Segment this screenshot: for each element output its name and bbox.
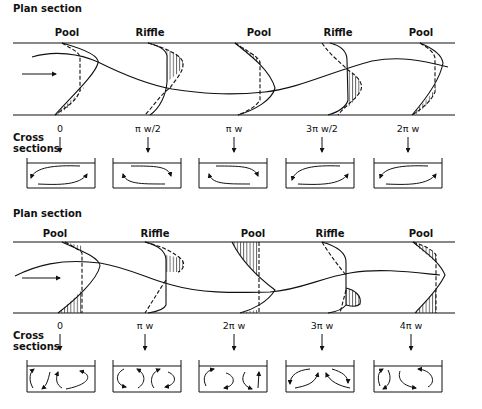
- cross-section-position: 0: [57, 124, 63, 134]
- cross-section-box: [374, 360, 442, 392]
- cross-section-position: 0: [57, 321, 63, 331]
- reach-label-pool: Pool: [409, 28, 434, 38]
- cross-section-box: [113, 360, 181, 392]
- cross-section-position: 3π w/2: [306, 124, 338, 134]
- panel-1-title: Plan section: [13, 4, 82, 14]
- reach-label-pool: Pool: [55, 28, 80, 38]
- thalweg-line: [15, 261, 440, 292]
- reach-label-pool: Pool: [409, 229, 434, 239]
- reach-label-riffle: Riffle: [140, 229, 169, 239]
- cross-sections-1: [27, 137, 442, 188]
- cross-section-box: [27, 158, 95, 188]
- hatched-region: [55, 86, 86, 115]
- cross-sections-2: [27, 334, 442, 392]
- plan-section-2: [13, 242, 455, 313]
- cross-section-position: 3π w: [311, 321, 334, 331]
- cross-sections-label: Cross sections: [13, 133, 60, 154]
- cross-section-box: [286, 360, 354, 392]
- cross-section-box: [374, 158, 442, 188]
- plan-section-1: [13, 43, 455, 115]
- reach-label-riffle: Riffle: [323, 28, 352, 38]
- reach-label-pool: Pool: [247, 28, 272, 38]
- reach-label-riffle: Riffle: [315, 229, 344, 239]
- cross-sections-label: Cross sections: [13, 331, 60, 352]
- panel-2-title: Plan section: [13, 209, 82, 219]
- cross-section-position: 2π w: [397, 124, 420, 134]
- thalweg-line: [32, 53, 448, 93]
- cross-section-box: [199, 360, 267, 392]
- cross-section-box: [27, 360, 95, 392]
- cross-section-position: π w: [137, 321, 154, 331]
- cross-section-position: 4π w: [400, 321, 423, 331]
- cross-section-box: [286, 158, 354, 188]
- cross-section-box: [113, 158, 181, 188]
- cross-section-position: π w/2: [135, 124, 161, 134]
- reach-label-pool: Pool: [241, 229, 266, 239]
- reach-label-riffle: Riffle: [135, 28, 164, 38]
- reach-label-pool: Pool: [43, 229, 68, 239]
- diagram-canvas: [0, 0, 482, 409]
- cross-section-box: [199, 158, 267, 188]
- cross-section-position: π w: [226, 124, 243, 134]
- cross-section-position: 2π w: [223, 321, 246, 331]
